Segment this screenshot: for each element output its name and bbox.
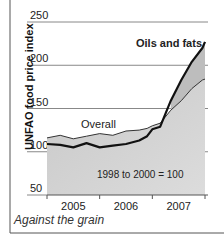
y-tick-label: 250	[30, 9, 48, 21]
chart: 50100150200250 200520062007 UNFAO food p…	[0, 0, 224, 243]
series-label-overall: Overall	[81, 118, 116, 130]
series-label-oils-and-fats: Oils and fats	[136, 37, 202, 49]
y-tick-label: 50	[30, 182, 42, 194]
chart-caption: Against the grain	[14, 213, 104, 227]
index-base-note: 1998 to 2000 = 100	[97, 169, 184, 180]
x-tick-label: 2007	[166, 200, 190, 212]
y-axis-label: UNFAO food price index	[23, 23, 35, 150]
x-tick-label: 2005	[61, 200, 85, 212]
x-axis: 200520062007	[47, 195, 208, 212]
x-tick-label: 2006	[114, 200, 138, 212]
